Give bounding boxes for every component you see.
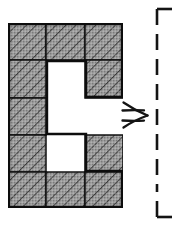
- cell-r4c1: [8, 135, 46, 172]
- cell-r5c3: [85, 172, 123, 208]
- polyomino-shape: [8, 23, 123, 208]
- mirror-axis: [144, 0, 173, 226]
- cell-r1c3: [85, 23, 123, 60]
- cell-r3c1: [8, 98, 46, 135]
- top-corner-bracket: [157, 9, 172, 25]
- cell-r5c2: [46, 172, 85, 208]
- cell-r4c3: [85, 135, 123, 172]
- cell-r1c1: [8, 23, 46, 60]
- cell-r2c3: [85, 60, 123, 98]
- figure-root: [0, 0, 173, 226]
- polyomino-svg: [8, 23, 123, 208]
- cell-r1c2: [46, 23, 85, 60]
- cell-r5c1: [8, 172, 46, 208]
- mirror-axis-svg: [144, 0, 173, 226]
- cell-r2c1: [8, 60, 46, 98]
- polyomino-cells: [8, 23, 123, 208]
- bottom-corner-bracket: [157, 201, 172, 217]
